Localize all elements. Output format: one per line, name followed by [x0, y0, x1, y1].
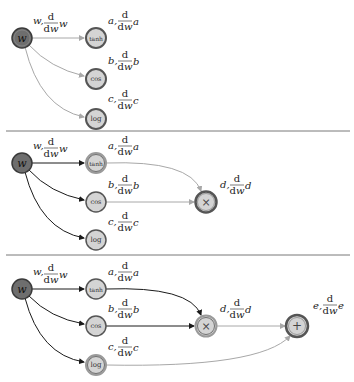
edge-w-log [25, 172, 84, 238]
svg-text:+: + [292, 319, 302, 333]
svg-text:d: d [327, 293, 334, 304]
node-log: log [86, 109, 106, 129]
svg-text:d: d [122, 134, 129, 145]
svg-text:tanh: tanh [89, 160, 103, 167]
svg-text:d: d [122, 335, 129, 346]
svg-text:×: × [201, 196, 210, 209]
node-w: w [12, 279, 32, 299]
svg-text:d: d [48, 136, 55, 147]
node-tanh: tanh [86, 279, 106, 299]
panel-1: w w, d dw w tanh a, d dw a cos b, d [12, 9, 139, 129]
svg-text:b: b [133, 180, 139, 191]
svg-text:dw: dw [44, 23, 59, 34]
svg-text:c: c [133, 342, 139, 353]
svg-text:c,: c, [108, 341, 117, 352]
edge-w-cos [29, 296, 84, 324]
label-c: c, d dw c [108, 335, 139, 358]
svg-text:a: a [133, 16, 139, 27]
svg-text:tanh: tanh [89, 286, 103, 293]
svg-text:d: d [122, 173, 129, 184]
label-a: a, d dw a [108, 9, 139, 32]
svg-text:dw: dw [118, 347, 133, 358]
svg-text:b,: b, [108, 179, 118, 190]
svg-text:w: w [59, 143, 68, 154]
svg-text:cos: cos [91, 198, 102, 206]
svg-text:d: d [122, 9, 129, 20]
svg-text:tanh: tanh [89, 35, 103, 42]
label-b: b, d dw b [108, 297, 139, 320]
svg-text:dw: dw [118, 309, 133, 320]
svg-text:b,: b, [108, 55, 118, 66]
svg-text:dw: dw [44, 148, 59, 159]
label-d: d, d dw d [220, 297, 251, 320]
svg-text:w: w [59, 269, 68, 280]
panel-2: w w, d dw w tanh a, d dw a cos b, d [12, 134, 251, 250]
svg-text:dw: dw [118, 185, 133, 196]
svg-text:dw: dw [230, 185, 245, 196]
svg-text:w: w [17, 283, 27, 296]
svg-text:dw: dw [118, 222, 133, 233]
svg-text:d,: d, [220, 303, 230, 314]
svg-text:dw: dw [118, 61, 133, 72]
svg-text:d: d [234, 297, 241, 308]
svg-text:d: d [48, 262, 55, 273]
node-cos: cos [86, 316, 106, 336]
panel-3: w w, d dw w tanh a, d dw a cos b, d [12, 260, 344, 375]
svg-text:d: d [245, 304, 251, 315]
node-w: w [12, 28, 32, 48]
label-w: w, d dw w [33, 136, 68, 159]
svg-text:log: log [91, 115, 102, 123]
svg-text:w,: w, [33, 266, 44, 277]
edge-w-log [25, 298, 84, 362]
label-e: e, d dw e [313, 293, 344, 316]
label-w: w, d dw w [33, 11, 68, 34]
node-tanh: tanh [86, 153, 106, 173]
svg-text:a,: a, [108, 266, 117, 277]
edge-w-log [25, 47, 84, 117]
svg-text:dw: dw [44, 274, 59, 285]
svg-text:×: × [201, 320, 210, 333]
svg-text:e,: e, [313, 300, 322, 311]
label-d: d, d dw d [220, 173, 251, 196]
svg-text:c,: c, [108, 216, 117, 227]
svg-text:cos: cos [91, 322, 102, 330]
node-cos: cos [86, 192, 106, 212]
svg-text:w,: w, [33, 15, 44, 26]
svg-text:d: d [122, 260, 129, 271]
svg-text:log: log [91, 236, 102, 244]
svg-text:cos: cos [91, 75, 102, 83]
node-add: + [286, 315, 308, 337]
svg-text:a: a [133, 267, 139, 278]
label-w: w, d dw w [33, 262, 68, 285]
svg-text:c,: c, [108, 93, 117, 104]
svg-text:d: d [122, 210, 129, 221]
computation-graph-diagram: w w, d dw w tanh a, d dw a cos b, d [0, 0, 354, 382]
svg-text:c: c [133, 217, 139, 228]
label-c: c, d dw c [108, 88, 139, 111]
node-mul: × [196, 192, 217, 213]
svg-text:a,: a, [108, 140, 117, 151]
svg-text:d: d [122, 88, 129, 99]
label-a: a, d dw a [108, 134, 139, 157]
edge-w-cos [29, 45, 84, 76]
svg-text:b: b [133, 56, 139, 67]
node-mul: × [196, 316, 217, 337]
svg-text:dw: dw [118, 146, 133, 157]
svg-text:w,: w, [33, 140, 44, 151]
svg-text:d: d [48, 11, 55, 22]
edge-w-cos [29, 170, 84, 200]
svg-text:c: c [133, 95, 139, 106]
node-cos: cos [86, 69, 106, 89]
svg-text:dw: dw [118, 100, 133, 111]
node-log: log [86, 355, 106, 375]
svg-text:w: w [59, 18, 68, 29]
svg-text:b: b [133, 304, 139, 315]
label-a: a, d dw a [108, 260, 139, 283]
svg-text:a: a [133, 141, 139, 152]
svg-text:w: w [17, 157, 27, 170]
node-tanh: tanh [86, 28, 106, 48]
svg-text:d,: d, [220, 179, 230, 190]
label-b: b, d dw b [108, 49, 139, 72]
svg-text:d: d [122, 297, 129, 308]
node-w-symbol: w [17, 32, 27, 45]
